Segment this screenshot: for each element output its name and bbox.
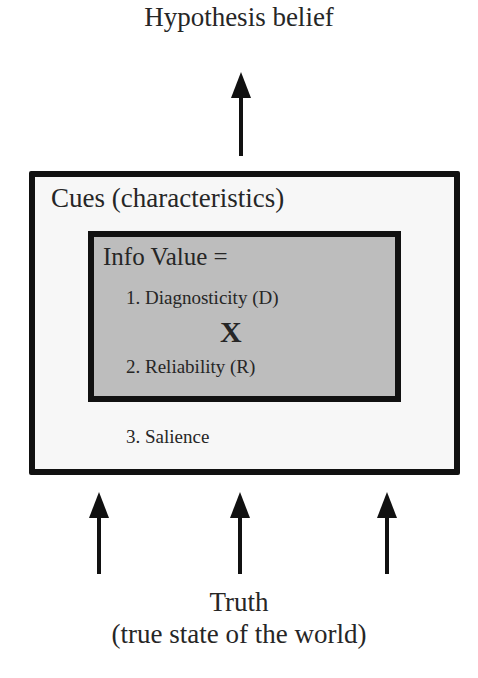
hypothesis-belief-label: Hypothesis belief [0,2,478,33]
arrow-shaft [385,512,389,574]
arrow-up-icon [230,492,250,574]
cues-box: Cues (characteristics) Info Value = 1. D… [29,171,460,475]
truth-label: Truth (true state of the world) [0,586,478,650]
arrow-up-icon [231,72,251,156]
arrow-shaft [97,512,101,574]
cues-label: Cues (characteristics) [51,183,284,214]
info-value-box: Info Value = 1. Diagnosticity (D) X 2. R… [88,231,401,402]
arrow-up-icon [89,492,109,574]
arrow-up-icon [377,492,397,574]
info-value-label: Info Value = [103,243,228,271]
arrow-shaft [238,512,242,574]
multiply-operator: X [220,315,242,349]
truth-title: Truth [0,586,478,618]
salience-item: 3. Salience [126,426,209,448]
diagnosticity-item: 1. Diagnosticity (D) [126,287,279,309]
arrow-shaft [239,92,243,156]
reliability-item: 2. Reliability (R) [126,356,255,378]
truth-subtitle: (true state of the world) [0,618,478,650]
